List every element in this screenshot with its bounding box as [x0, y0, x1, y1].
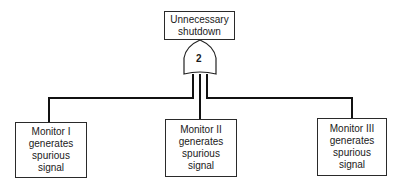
monitor-1-box: Monitor I generates spurious signal — [15, 122, 87, 178]
monitor-3-line-3: spurious — [333, 147, 371, 159]
monitor-2-line-1: Monitor II — [180, 124, 222, 136]
monitor-1-line-3: spurious — [32, 150, 70, 162]
monitor-2-line-4: signal — [188, 160, 214, 172]
monitor-2-box: Monitor II generates spurious signal — [165, 119, 237, 177]
top-event-line-1: Unnecessary — [170, 14, 228, 26]
monitor-3-line-4: signal — [339, 159, 365, 171]
monitor-3-line-1: Monitor III — [330, 123, 374, 135]
top-event-box: Unnecessary shutdown — [164, 11, 235, 40]
monitor-2-line-3: spurious — [182, 148, 220, 160]
monitor-1-line-4: signal — [38, 162, 64, 174]
monitor-1-line-1: Monitor I — [32, 126, 71, 138]
voting-gate-label: 2 — [196, 53, 202, 64]
monitor-3-line-2: generates — [330, 135, 374, 147]
monitor-3-box: Monitor III generates spurious signal — [317, 118, 387, 176]
top-event-line-2: shutdown — [178, 26, 221, 38]
monitor-2-line-2: generates — [179, 136, 223, 148]
monitor-1-line-2: generates — [29, 138, 73, 150]
